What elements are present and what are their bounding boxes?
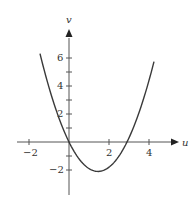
v-tick-label: 4 xyxy=(57,80,63,91)
u-axis-arrow-icon xyxy=(171,139,179,146)
parabola-curve xyxy=(40,54,154,172)
v-tick-label: −2 xyxy=(49,164,64,175)
v-tick-label: 6 xyxy=(57,52,63,63)
u-tick-label: −2 xyxy=(23,147,38,158)
u-axis-label: u xyxy=(182,137,188,148)
u-tick-label: 4 xyxy=(146,147,152,158)
v-axis-label: v xyxy=(66,14,72,25)
v-axis-arrow-icon xyxy=(66,29,73,37)
parabola-graph: u v −2 2 4 6 4 2 −2 xyxy=(0,0,194,201)
u-tick-label: 2 xyxy=(106,147,112,158)
